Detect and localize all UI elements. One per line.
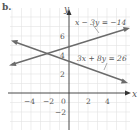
line-2-arrow-end-icon [121, 79, 128, 84]
y-tick-label: −2 [55, 108, 66, 117]
y-axis-label: y [63, 4, 70, 14]
x-tick-label: 0 [61, 97, 66, 106]
equation-label-2: 3x + 8y = 26 [77, 54, 127, 63]
y-tick-label: 2 [60, 70, 65, 79]
y-tick-label: 4 [60, 51, 65, 60]
x-tick-label: −4 [24, 97, 35, 106]
x-tick-label: −2 [43, 97, 54, 106]
axes [8, 12, 128, 130]
problem-label: b. [2, 2, 11, 12]
x-tick-label: 4 [105, 97, 110, 106]
x-tick-label: 2 [86, 97, 91, 106]
x-axis-arrow-icon [125, 91, 131, 96]
graph: b. y x x − 3y = −14 3x + 8y = 26 −4 −2 0… [0, 0, 140, 130]
x-axis-label: x [132, 89, 137, 99]
line-1-arrow-start-icon [9, 62, 17, 67]
line-1-arrow-end-icon [123, 27, 130, 32]
label-leader-2 [104, 63, 107, 70]
equation-label-1: x − 3y = −14 [75, 18, 126, 27]
y-tick-label: 6 [60, 32, 65, 41]
